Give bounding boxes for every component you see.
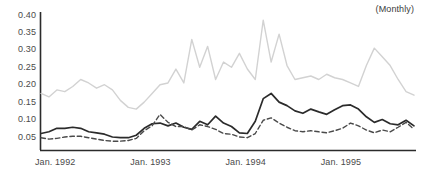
x-tick-label: Jan. 1992 bbox=[35, 157, 75, 167]
x-tick-label: Jan. 1993 bbox=[130, 157, 170, 167]
x-axis-tick-labels: Jan. 1992Jan. 1993Jan. 1994Jan. 1995 bbox=[0, 0, 422, 185]
x-tick-label: Jan. 1994 bbox=[225, 157, 265, 167]
chart-container: (Monthly) 0.400.350.300.250.200.150.100.… bbox=[0, 0, 422, 185]
x-tick-label: Jan. 1995 bbox=[321, 157, 361, 167]
